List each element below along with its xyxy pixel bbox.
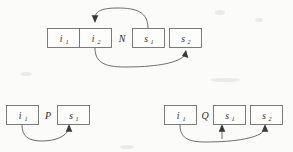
edge-p-i1-to-s1: [22, 124, 72, 141]
node-box-n-s1[interactable]: [133, 29, 165, 48]
node-box-n-i1[interactable]: [48, 29, 80, 48]
node-box-n-s2[interactable]: [170, 29, 202, 48]
node-box-q-i1[interactable]: [165, 106, 197, 125]
edge-path-p-bottom: [22, 125, 68, 141]
node-label-q-i1: i: [177, 111, 180, 121]
edge-q-i1-to-s1: [219, 124, 226, 139]
node-q-i1[interactable]: i 1: [165, 106, 197, 125]
node-box-p-s1[interactable]: [58, 106, 90, 125]
arrowhead-n-top: [92, 15, 99, 23]
node-p-s1[interactable]: s 1: [58, 106, 90, 125]
diagram-n: i 1 i 2 N s 1 s 2: [48, 8, 202, 67]
relation-label-p: P: [44, 110, 51, 121]
node-box-n-i2[interactable]: [80, 29, 112, 48]
node-label-p-i1: i: [19, 111, 22, 121]
node-sub-q-s2: 2: [268, 115, 271, 122]
node-label-n-i2: i: [92, 34, 95, 44]
node-sub-p-i1: 1: [24, 115, 27, 122]
node-q-s2[interactable]: s 2: [251, 106, 283, 125]
node-n-s2[interactable]: s 2: [170, 29, 202, 48]
node-label-q-s1: s: [225, 111, 229, 121]
edge-path-n-bottom: [95, 48, 184, 67]
node-label-n-s2: s: [181, 34, 185, 44]
node-p-i1[interactable]: i 1: [7, 106, 39, 125]
node-box-q-s1[interactable]: [214, 106, 246, 125]
node-sub-p-s1: 1: [75, 115, 78, 122]
diagram-q: i 1 Q s 1 s 2: [165, 106, 283, 143]
figure-root: i 1 i 2 N s 1 s 2: [0, 0, 293, 152]
arrowhead-p-bottom: [66, 124, 73, 132]
edge-q-i1-to-s2: [180, 124, 268, 142]
node-sub-n-s2: 2: [187, 38, 190, 45]
node-n-i2[interactable]: i 2: [80, 29, 112, 48]
arrowhead-q-s2: [262, 124, 269, 132]
node-box-p-i1[interactable]: [7, 106, 39, 125]
diagram-p: i 1 P s 1: [7, 106, 90, 142]
edge-n-i2-to-s2: [95, 48, 188, 67]
node-box-q-s2[interactable]: [251, 106, 283, 125]
relation-label-n: N: [118, 33, 127, 44]
edge-path-n-top: [95, 8, 148, 28]
node-sub-q-s1: 1: [231, 115, 234, 122]
node-sub-n-i2: 2: [97, 38, 100, 45]
relation-label-q: Q: [201, 110, 209, 121]
node-sub-n-s1: 1: [150, 38, 153, 45]
node-n-s1[interactable]: s 1: [133, 29, 165, 48]
node-label-p-s1: s: [69, 111, 73, 121]
arrowhead-q-s1: [219, 124, 226, 132]
node-label-n-i1: i: [60, 34, 63, 44]
diagram-canvas: i 1 i 2 N s 1 s 2: [0, 0, 293, 152]
node-sub-q-i1: 1: [182, 115, 185, 122]
node-q-s1[interactable]: s 1: [214, 106, 246, 125]
node-label-q-s2: s: [262, 111, 266, 121]
node-label-n-s1: s: [144, 34, 148, 44]
node-n-i1[interactable]: i 1: [48, 29, 80, 48]
node-sub-n-i1: 1: [65, 38, 68, 45]
edge-n-s1-to-i2: [92, 8, 148, 28]
